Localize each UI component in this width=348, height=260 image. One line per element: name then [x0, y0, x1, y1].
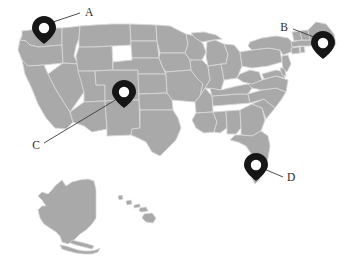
- alaska-inset: [38, 179, 100, 254]
- hawaii-molokai: [134, 204, 140, 208]
- us-map-figure: A B C D: [0, 0, 348, 260]
- hawaii-oahu: [126, 200, 132, 205]
- state-wyoming: [76, 46, 113, 71]
- hawaii-big-island: [142, 213, 156, 223]
- state-rhode-island: [300, 46, 305, 53]
- contiguous-us-layer: [18, 22, 336, 184]
- state-minnesota: [156, 25, 188, 53]
- pin-b-hole: [318, 38, 328, 48]
- state-alabama: [226, 110, 241, 134]
- state-iowa: [159, 53, 191, 72]
- pin-d-hole: [251, 160, 261, 170]
- map-canvas: A B C D: [0, 0, 348, 260]
- leader-line-d: [264, 169, 283, 177]
- marker-label-c: C: [32, 139, 40, 151]
- state-kansas: [138, 74, 167, 94]
- marker-label-b: B: [280, 21, 288, 33]
- alaska-mainland: [38, 179, 96, 244]
- leader-line-a: [53, 13, 80, 22]
- state-west-virginia: [237, 70, 262, 84]
- marker-label-a: A: [85, 6, 94, 18]
- map-pin-b[interactable]: [311, 31, 335, 59]
- state-north-dakota: [130, 24, 157, 41]
- state-louisiana: [192, 112, 217, 133]
- state-connecticut: [291, 47, 300, 54]
- map-pin-d[interactable]: [244, 153, 268, 181]
- pin-a-hole: [39, 23, 49, 33]
- hawaii-inset: [118, 195, 156, 223]
- marker-label-d: D: [287, 171, 295, 183]
- state-oklahoma: [139, 93, 173, 110]
- pin-c-hole: [119, 87, 129, 97]
- state-pennsylvania: [240, 48, 282, 68]
- alaska-peninsula: [70, 240, 94, 249]
- hawaii-kauai: [118, 195, 123, 200]
- hawaii-maui: [139, 207, 148, 212]
- state-south-dakota: [131, 41, 159, 58]
- state-montana: [79, 24, 131, 47]
